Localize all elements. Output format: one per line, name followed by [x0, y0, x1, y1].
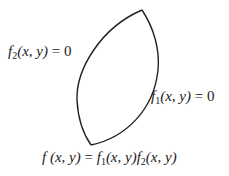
f2-args: (x, y): [17, 43, 48, 59]
product-lhs-args: (x, y): [46, 149, 81, 165]
f1-curve: [91, 10, 158, 145]
product-equation-label: f (x, y) = f1(x, y)f2(x, y): [42, 150, 177, 165]
f1-rhs: = 0: [191, 88, 214, 104]
f1-equation-label: f1(x, y) = 0: [151, 89, 214, 104]
product-t2-args: (x, y): [146, 149, 177, 165]
product-equals: =: [81, 149, 97, 165]
product-t1-args: (x, y): [106, 149, 137, 165]
f2-curve: [77, 10, 142, 145]
f2-rhs: = 0: [48, 43, 71, 59]
f2-equation-label: f2(x, y) = 0: [8, 44, 71, 59]
f1-args: (x, y): [160, 88, 191, 104]
